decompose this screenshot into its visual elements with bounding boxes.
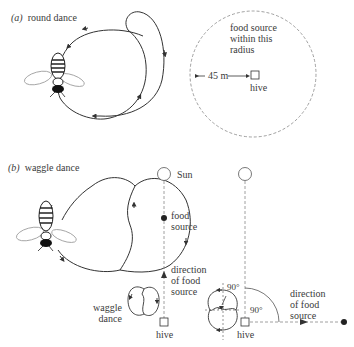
waggle-dance-label: waggle dance (93, 302, 122, 324)
direction-arrow-up (161, 271, 167, 278)
hive-icon-b1 (160, 318, 168, 326)
panel-b-tag: (b) (8, 162, 20, 173)
panel-b-title: (b) waggle dance (8, 163, 79, 173)
round-dance-path (57, 12, 165, 119)
distance-label: 45 m (208, 71, 228, 81)
hive-label-a: hive (250, 83, 267, 93)
food-source-label: food source (171, 210, 197, 232)
food-source-dot-b2 (341, 319, 347, 325)
angle-label-small: 90° (227, 282, 240, 292)
food-source-dot-b1 (161, 215, 167, 221)
hive-label-b2: hive (237, 330, 254, 340)
panel-a-title: (a) round dance (11, 13, 77, 23)
waggle-dance-large-path (50, 178, 190, 272)
panel-b-title-text: waggle dance (25, 162, 80, 173)
bee-icon-a (23, 53, 86, 97)
waggle-dance-small (128, 287, 159, 316)
sun-label: Sun (177, 170, 193, 180)
direction-label-2: direction of food source (290, 288, 326, 321)
sun-icon-2 (239, 168, 252, 181)
angle-label-large: 90° (250, 305, 263, 315)
hive-label-b1: hive (156, 330, 173, 340)
sun-icon (158, 168, 171, 181)
food-radius-label: food source within this radius (230, 22, 277, 55)
hive-icon-a (251, 71, 259, 79)
hive-icon-b2 (241, 318, 249, 326)
panel-a-tag: (a) (11, 12, 23, 23)
panel-a-title-text: round dance (28, 12, 77, 23)
direction-label-1: direction of food source (171, 264, 207, 297)
